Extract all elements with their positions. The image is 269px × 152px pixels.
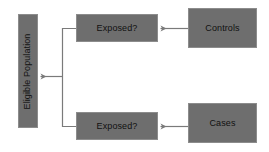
- node-exposed-bottom-label: Exposed?: [97, 122, 138, 131]
- node-cases: Cases: [188, 103, 257, 143]
- node-exposed-top: Exposed?: [76, 14, 158, 42]
- edge-exposed-to-eligible-population: [41, 29, 77, 127]
- node-cases-label: Cases: [209, 119, 235, 128]
- node-exposed-bottom: Exposed?: [76, 112, 158, 140]
- node-eligible-population: Eligible Population: [18, 14, 38, 128]
- diagram-canvas: Eligible Population Exposed? Exposed? Co…: [0, 0, 269, 152]
- node-controls-label: Controls: [205, 24, 239, 33]
- node-controls: Controls: [188, 8, 257, 48]
- node-exposed-top-label: Exposed?: [97, 24, 138, 33]
- node-eligible-population-label: Eligible Population: [24, 33, 33, 109]
